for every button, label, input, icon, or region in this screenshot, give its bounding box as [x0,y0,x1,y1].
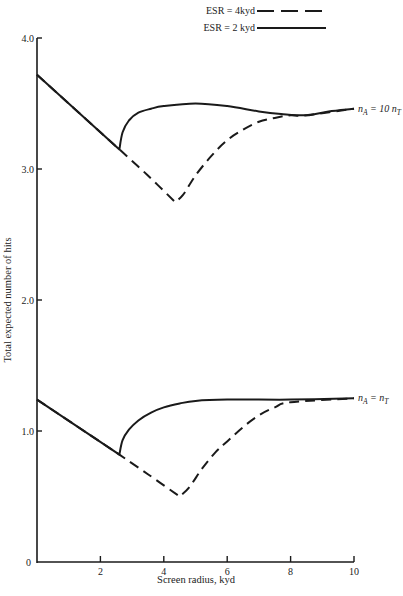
plot-series [37,75,354,497]
series-upper-dashed [37,75,354,202]
chart-canvas: ESR = 4kyd ESR = 2 kyd 1.02.03.04.0 2468… [0,0,403,596]
y-tick-label: 2.0 [22,295,35,306]
y-ticks: 1.02.03.04.0 [22,33,43,437]
x-tick-label: 2 [98,566,103,577]
y-axis-label: Total expected number of hits [2,237,13,362]
legend-label-dashed: ESR = 4kyd [206,5,255,16]
x-tick-label: 8 [288,566,293,577]
series-lower-solid [37,398,354,454]
legend-label-solid: ESR = 2 kyd [204,22,255,33]
legend: ESR = 4kyd ESR = 2 kyd [204,5,326,33]
series-annotation-lower: nA = nT [358,392,389,406]
series-annotation-upper: nA = 10 nT [358,103,402,117]
x-zero-label: 0 [26,557,31,568]
series-upper-solid [37,75,354,150]
x-axis-label: Screen radius, kyd [157,574,236,585]
y-tick-label: 3.0 [22,164,35,175]
svg-text:nA = 10 nT: nA = 10 nT [358,103,402,117]
svg-text:nA = nT: nA = nT [358,392,389,406]
y-tick-label: 1.0 [22,426,35,437]
y-tick-label: 4.0 [22,33,35,44]
series-lower-dashed [37,398,354,496]
x-tick-label: 10 [349,566,359,577]
